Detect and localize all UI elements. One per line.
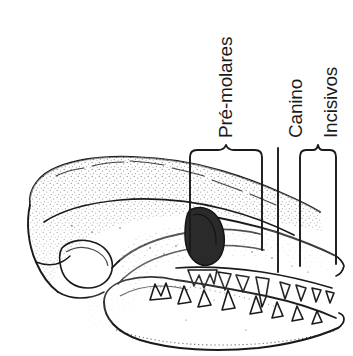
label-canino: Canino [286,79,305,138]
brace-premolares [190,145,262,252]
label-premolares: Pré-molares [216,37,235,138]
annotation-markers [0,0,353,356]
brace-incisivos [300,145,336,266]
skull-dentition-figure: Pré-molares Canino Incisivos [0,0,353,356]
label-incisivos: Incisivos [321,67,340,138]
